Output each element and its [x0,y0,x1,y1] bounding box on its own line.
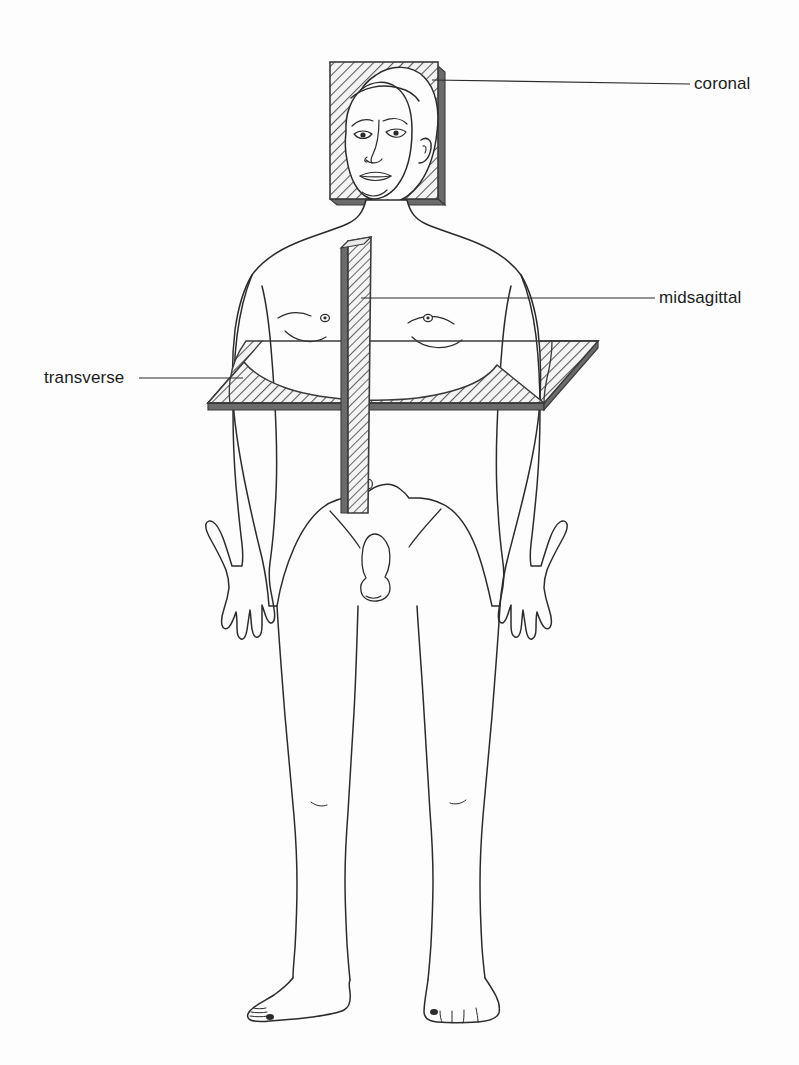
midsagittal-plane [341,237,371,513]
plane-label-midsagittal: midsagittal [659,289,741,306]
anatomical-planes-figure: coronal midsagittal transverse [0,0,799,1065]
body-planes-diagram [0,0,799,1065]
plane-label-coronal: coronal [694,75,750,92]
plane-label-transverse: transverse [44,369,124,386]
leader-line-coronal [432,80,690,84]
body-outline [206,200,568,1023]
